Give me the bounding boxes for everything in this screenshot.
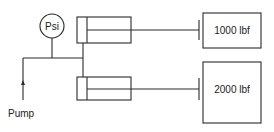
pressure-gauge-icon: Psi <box>40 14 64 38</box>
gauge-label: Psi <box>45 21 59 32</box>
hydraulic-cylinder-icon <box>77 77 199 100</box>
hydraulic-diagram: Psi Pump 1000 lbf 2000 lbf <box>0 0 274 132</box>
load-label-bottom: 2000 lbf <box>214 84 250 95</box>
hydraulic-cylinder-icon <box>77 17 199 43</box>
flow-arrow-icon <box>21 80 25 85</box>
pump-label: Pump <box>8 108 35 119</box>
load-box-top: 1000 lbf <box>203 13 261 48</box>
load-box-bottom: 2000 lbf <box>203 62 261 123</box>
load-label-top: 1000 lbf <box>214 25 250 36</box>
